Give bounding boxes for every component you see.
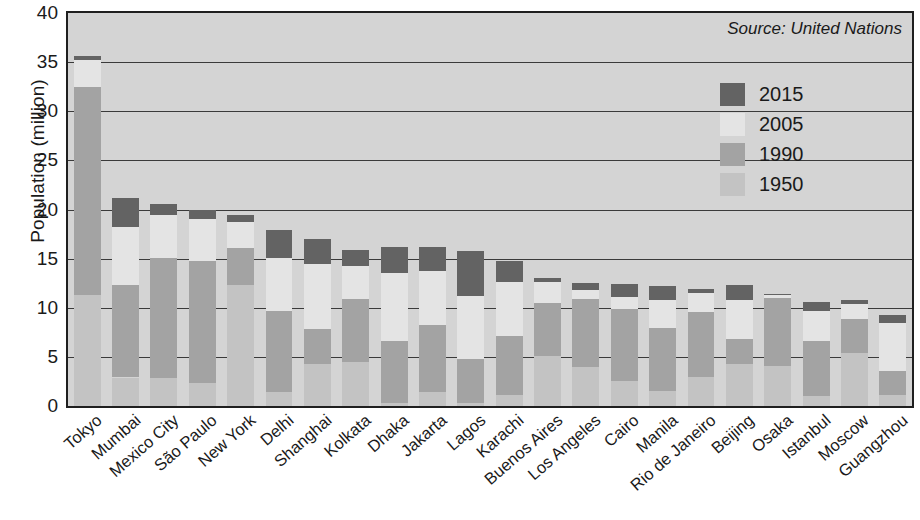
bar-segment-2015 [649, 286, 676, 300]
bar-segment-2015 [112, 198, 139, 227]
bar-segment-2005 [304, 264, 331, 330]
x-axis-tick-labels: TokyoMumbaiMexico CitySão PauloNew YorkD… [0, 408, 920, 520]
bar-segment-2005 [841, 304, 868, 319]
bar-segment-2005 [112, 227, 139, 285]
bar-group[interactable] [457, 13, 484, 406]
bar-segment-1990 [572, 299, 599, 367]
bar-segment-1990 [534, 303, 561, 356]
legend-item-1950[interactable]: 1950 [720, 169, 838, 199]
bar-group[interactable] [227, 13, 254, 406]
bar-segment-1950 [879, 395, 906, 406]
bar-segment-1950 [726, 364, 753, 406]
bar-segment-1950 [227, 285, 254, 406]
bar-group[interactable] [726, 13, 753, 406]
bar-segment-1950 [764, 366, 791, 406]
bar-group[interactable] [764, 13, 791, 406]
bar-segment-1950 [611, 381, 638, 406]
bar-segment-1990 [150, 258, 177, 378]
bar-group[interactable] [150, 13, 177, 406]
bar-segment-2015 [189, 210, 216, 220]
bar-segment-2005 [496, 282, 523, 336]
bar-segment-2015 [227, 215, 254, 222]
bar-segment-2005 [419, 271, 446, 325]
bar-segment-1990 [726, 339, 753, 364]
bar-group[interactable] [611, 13, 638, 406]
bar-group[interactable] [879, 13, 906, 406]
bar-segment-1950 [419, 392, 446, 406]
bar-segment-1950 [534, 356, 561, 406]
bar-segment-1950 [649, 391, 676, 406]
bar-segment-2005 [764, 295, 791, 298]
bar-segment-2005 [726, 300, 753, 339]
bar-segment-2015 [342, 250, 369, 266]
bar-group[interactable] [534, 13, 561, 406]
bar-segment-1990 [266, 311, 293, 393]
y-tick-label: 35 [37, 51, 58, 73]
bar-segment-1950 [266, 392, 293, 406]
y-tick-label: 5 [47, 346, 58, 368]
legend-label: 1990 [759, 143, 804, 166]
y-tick-label: 40 [37, 2, 58, 24]
bar-segment-1950 [841, 353, 868, 406]
bar-segment-1990 [841, 319, 868, 353]
bar-segment-2015 [74, 56, 101, 60]
bar-segment-1950 [688, 377, 715, 406]
bar-segment-2005 [688, 293, 715, 312]
bar-group[interactable] [266, 13, 293, 406]
bar-segment-1950 [381, 403, 408, 406]
bar-segment-2015 [457, 251, 484, 296]
bar-group[interactable] [688, 13, 715, 406]
bar-segment-1950 [803, 396, 830, 406]
legend-item-1990[interactable]: 1990 [720, 139, 838, 169]
legend-item-2005[interactable]: 2005 [720, 109, 838, 139]
legend-swatch-icon [720, 173, 745, 196]
bar-segment-2015 [572, 283, 599, 290]
bar-group[interactable] [74, 13, 101, 406]
bar-segment-1990 [381, 341, 408, 403]
bar-segment-2005 [189, 219, 216, 260]
bar-segment-2005 [150, 215, 177, 257]
plot-area: Source: United Nations 2015200519901950 [66, 11, 914, 408]
bar-segment-1950 [342, 362, 369, 406]
bar-segment-2015 [534, 278, 561, 282]
bar-segment-1990 [342, 299, 369, 362]
bar-segment-2005 [381, 273, 408, 341]
bar-segment-2005 [803, 311, 830, 341]
bar-group[interactable] [112, 13, 139, 406]
legend-item-2015[interactable]: 2015 [720, 79, 838, 109]
bar-segment-1950 [304, 364, 331, 406]
bar-group[interactable] [304, 13, 331, 406]
bar-segment-2015 [803, 302, 830, 311]
bar-segment-1990 [457, 359, 484, 403]
bar-group[interactable] [841, 13, 868, 406]
legend-swatch-icon [720, 143, 745, 166]
bar-segment-2015 [611, 284, 638, 297]
legend-label: 2005 [759, 113, 804, 136]
bar-series-group [68, 13, 912, 406]
bar-group[interactable] [803, 13, 830, 406]
bar-group[interactable] [419, 13, 446, 406]
bar-segment-2005 [227, 222, 254, 248]
bar-group[interactable] [342, 13, 369, 406]
bar-group[interactable] [381, 13, 408, 406]
bar-segment-2015 [496, 261, 523, 283]
bar-group[interactable] [496, 13, 523, 406]
bar-segment-2015 [726, 285, 753, 300]
legend-swatch-icon [720, 83, 745, 106]
y-tick-label: 30 [37, 100, 58, 122]
bar-segment-2005 [266, 258, 293, 311]
bar-segment-2015 [879, 315, 906, 324]
bar-group[interactable] [572, 13, 599, 406]
bar-segment-1990 [879, 371, 906, 396]
bar-segment-1990 [688, 312, 715, 377]
bar-segment-2015 [304, 239, 331, 264]
bar-group[interactable] [649, 13, 676, 406]
bar-segment-2005 [534, 282, 561, 303]
bar-segment-1990 [496, 336, 523, 395]
bar-segment-2015 [688, 289, 715, 293]
bar-segment-1950 [457, 403, 484, 406]
bar-segment-2005 [572, 290, 599, 299]
bar-segment-1990 [227, 248, 254, 285]
bar-segment-1950 [496, 395, 523, 406]
bar-group[interactable] [189, 13, 216, 406]
